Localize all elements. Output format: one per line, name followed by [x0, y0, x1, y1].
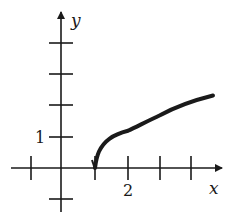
- y-axis-label: y: [70, 10, 81, 30]
- x-axis: [11, 156, 222, 180]
- function-curve: [95, 96, 213, 169]
- x-tick-label-2: 2: [123, 181, 133, 200]
- y-tick-label-1: 1: [35, 128, 45, 147]
- y-axis: [49, 12, 73, 212]
- x-axis-label: x: [209, 178, 219, 198]
- graph: y x 1 2: [0, 0, 236, 218]
